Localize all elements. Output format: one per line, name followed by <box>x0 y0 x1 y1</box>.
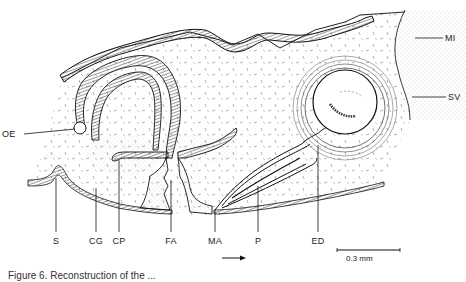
label-cp: CP <box>113 236 126 246</box>
label-p: P <box>255 236 261 246</box>
label-s: S <box>53 236 59 246</box>
label-cg: CG <box>89 236 103 246</box>
label-ma: MA <box>208 236 222 246</box>
oe-structure <box>74 122 86 134</box>
label-oe: OE <box>2 129 15 139</box>
figure-caption: Figure 6. Reconstruction of the ... <box>8 270 156 282</box>
label-sv: SV <box>448 92 460 102</box>
label-fa: FA <box>165 236 176 246</box>
scale-bar-label: 0.3 mm <box>346 254 373 263</box>
right-arrow-icon <box>222 256 246 261</box>
label-ed: ED <box>312 236 325 246</box>
scale-bar <box>337 248 400 252</box>
label-mi: MI <box>445 33 455 43</box>
